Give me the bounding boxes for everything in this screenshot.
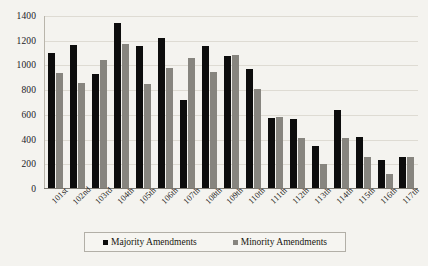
bar-group [242, 16, 264, 188]
y-axis-tick-label: 1400 [17, 11, 36, 21]
y-axis: 0200400600800100012001400 [0, 16, 40, 189]
bar-group [352, 16, 374, 188]
bar-minority [122, 44, 129, 188]
bar-majority [92, 74, 99, 188]
legend-label: Majority Amendments [111, 237, 197, 247]
bar-group [330, 16, 352, 188]
x-axis-tick-slot: 103rd [89, 190, 111, 224]
x-axis-tick-slot: 114th [330, 190, 352, 224]
bar-majority [48, 53, 55, 188]
x-axis-tick-slot: 105th [133, 190, 155, 224]
bar-majority [114, 23, 121, 188]
bar-minority [144, 84, 151, 188]
bar-group [67, 16, 89, 188]
bar-minority [232, 55, 239, 188]
bar-group [396, 16, 418, 188]
y-axis-tick-label: 400 [21, 135, 36, 145]
bar-minority [210, 72, 217, 188]
y-axis-tick-label: 600 [21, 110, 36, 120]
bar-group [133, 16, 155, 188]
bar-majority [246, 69, 253, 188]
legend-entry: Majority Amendments [103, 237, 197, 247]
y-axis-tick-label: 1000 [17, 60, 36, 70]
legend-swatch-majority-icon [103, 240, 108, 245]
x-axis-tick-slot: 108th [199, 190, 221, 224]
bar-minority [407, 157, 414, 188]
bar-minority [166, 68, 173, 188]
bar-group [199, 16, 221, 188]
bar-majority [268, 118, 275, 188]
x-axis-line [44, 188, 418, 189]
bar-minority [78, 83, 85, 188]
bar-majority [378, 160, 385, 188]
bar-minority [276, 117, 283, 188]
legend-label: Minority Amendments [241, 237, 327, 247]
bar-group [45, 16, 67, 188]
x-axis-tick-slot: 104th [111, 190, 133, 224]
bar-group [374, 16, 396, 188]
bar-majority [399, 157, 406, 188]
x-axis-tick-slot: 117th [396, 190, 418, 224]
bar-majority [70, 45, 77, 188]
x-axis-tick-slot: 107th [177, 190, 199, 224]
bar-minority [254, 89, 261, 188]
x-axis: 101st102nd103rd104th105th106th107th108th… [45, 190, 418, 224]
bar-minority [188, 58, 195, 188]
bar-majority [158, 38, 165, 188]
bar-group [155, 16, 177, 188]
bar-majority [136, 46, 143, 188]
bar-minority [56, 73, 63, 188]
bar-group [221, 16, 243, 188]
bar-chart: 0200400600800100012001400 101st102nd103r… [0, 0, 428, 266]
bar-group [111, 16, 133, 188]
x-axis-tick-slot: 110th [242, 190, 264, 224]
bar-minority [100, 60, 107, 188]
x-axis-tick-slot: 115th [352, 190, 374, 224]
x-axis-tick-slot: 113th [308, 190, 330, 224]
bar-minority [342, 138, 349, 188]
bar-group [308, 16, 330, 188]
bar-group [286, 16, 308, 188]
x-axis-tick-slot: 106th [155, 190, 177, 224]
bar-group [89, 16, 111, 188]
legend-swatch-minority-icon [233, 240, 238, 245]
bar-majority [290, 119, 297, 188]
bar-group [177, 16, 199, 188]
plot-area [44, 16, 418, 189]
bar-minority [298, 138, 305, 188]
bars-layer [45, 16, 418, 188]
x-axis-tick-slot: 111th [264, 190, 286, 224]
x-axis-tick-slot: 109th [221, 190, 243, 224]
y-axis-tick-label: 0 [31, 184, 36, 194]
bar-majority [180, 100, 187, 188]
chart-legend: Majority AmendmentsMinority Amendments [84, 232, 346, 252]
bar-majority [202, 46, 209, 188]
x-axis-tick-slot: 116th [374, 190, 396, 224]
bar-majority [312, 146, 319, 188]
y-axis-tick-label: 200 [21, 159, 36, 169]
bar-majority [224, 56, 231, 188]
x-axis-tick-slot: 112th [286, 190, 308, 224]
x-axis-tick-slot: 101st [45, 190, 67, 224]
legend-entry: Minority Amendments [233, 237, 327, 247]
y-axis-tick-label: 800 [21, 85, 36, 95]
bar-majority [334, 110, 341, 188]
x-axis-tick-slot: 102nd [67, 190, 89, 224]
bar-majority [356, 137, 363, 188]
bar-minority [364, 157, 371, 188]
y-axis-tick-label: 1200 [17, 36, 36, 46]
bar-group [264, 16, 286, 188]
